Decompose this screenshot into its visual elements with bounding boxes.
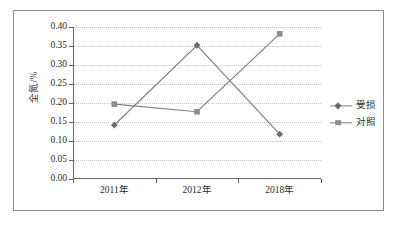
y-tick-label: 0.10 [50,136,67,146]
data-point-square[interactable] [112,101,118,107]
legend: 受损 对照 [330,97,382,131]
y-tick-label: 0.05 [50,155,67,165]
x-tick-label: 2018年 [265,186,294,196]
y-tick-label: 0.20 [50,98,67,108]
data-point-square[interactable] [194,109,200,115]
x-tick [156,179,157,183]
x-tick-label: 2012年 [183,186,212,196]
x-tick-label: 2011年 [100,186,129,196]
y-tick-label: 0.00 [50,174,67,184]
y-tick-label: 0.35 [50,41,67,51]
legend-item-control[interactable]: 对照 [330,114,382,131]
diamond-marker-icon [330,101,352,111]
y-tick-label: 0.25 [50,79,67,89]
plot-area: 0.000.050.100.150.200.250.300.350.40 201… [73,27,321,179]
y-tick-label: 0.15 [50,117,67,127]
series-layer [73,27,321,179]
legend-label-damaged: 受损 [356,101,376,111]
legend-item-damaged[interactable]: 受损 [330,97,382,114]
plot-inner: 0.000.050.100.150.200.250.300.350.40 201… [73,27,321,179]
y-tick-label: 0.40 [50,22,67,32]
x-tick [238,179,239,183]
x-tick [73,179,74,183]
legend-label-control: 对照 [356,118,376,128]
y-tick-label: 0.30 [50,60,67,70]
x-tick [321,179,322,183]
y-axis-title: 全氮/% [26,71,40,103]
series-line [114,45,279,134]
square-marker-icon [330,118,352,128]
data-point-square[interactable] [277,31,283,37]
